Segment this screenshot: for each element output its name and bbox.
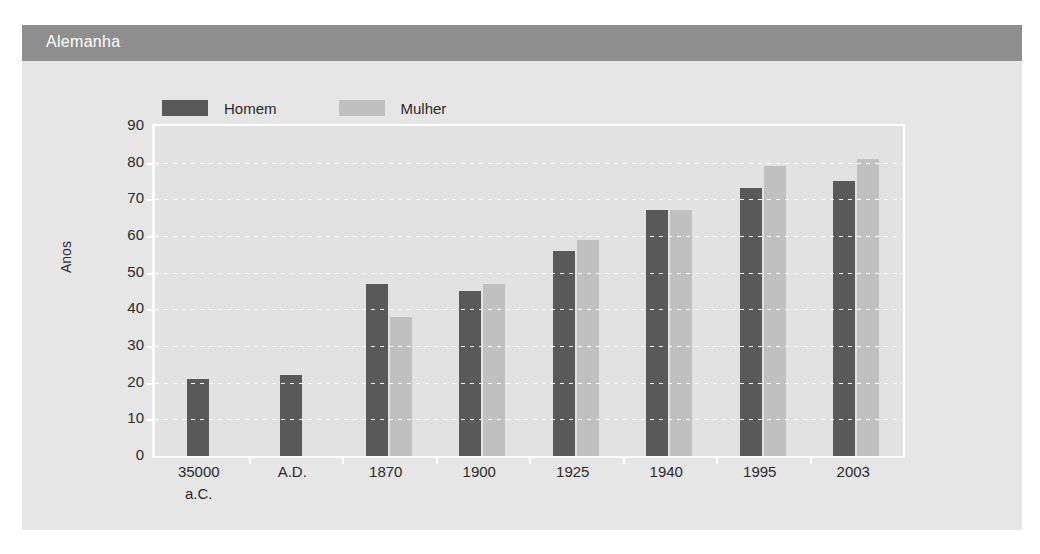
x-tick-label: 1995 (743, 461, 776, 483)
bar-mulher-7 (857, 159, 879, 456)
plot-wrapper: Anos 0102030405060708090 35000a.C.A.D.18… (22, 25, 1022, 530)
y-tick-mark (147, 273, 155, 275)
x-tick-label: 2003 (837, 461, 870, 483)
plot-area (152, 124, 905, 458)
y-tick-label: 0 (136, 446, 144, 463)
bar-homem-1 (280, 375, 302, 456)
bar-homem-7 (833, 181, 855, 456)
bar-homem-0 (187, 379, 209, 456)
y-tick-label: 60 (127, 226, 144, 243)
gridline (155, 163, 903, 164)
y-axis-title: Anos (58, 241, 74, 273)
y-tick-label: 10 (127, 409, 144, 426)
y-tick-mark (147, 419, 155, 421)
x-tick-label-line: 1870 (369, 463, 402, 480)
gridline (155, 199, 903, 200)
y-tick-mark (147, 309, 155, 311)
x-tick-label: 1870 (369, 461, 402, 483)
x-tick-label-line: a.C. (178, 483, 220, 505)
x-tick-label-line: 1900 (463, 463, 496, 480)
x-tick-label: 35000a.C. (178, 461, 220, 505)
x-axis-tick-labels: 35000a.C.A.D.187019001925194019952003 (152, 461, 900, 521)
x-tick-label-line: 1995 (743, 463, 776, 480)
x-tick-label-line: 2003 (837, 463, 870, 480)
gridline (155, 273, 903, 274)
x-tick-label-line: 35000 (178, 463, 220, 480)
y-tick-label: 80 (127, 152, 144, 169)
x-tick-label-line: 1940 (650, 463, 683, 480)
bars-layer (155, 126, 903, 456)
bar-mulher-2 (390, 317, 412, 456)
y-tick-mark (147, 346, 155, 348)
bar-homem-4 (553, 251, 575, 456)
y-tick-mark (147, 236, 155, 238)
bar-mulher-6 (764, 166, 786, 456)
y-tick-label: 50 (127, 262, 144, 279)
gridline (155, 236, 903, 237)
y-tick-label: 70 (127, 189, 144, 206)
gridline (155, 383, 903, 384)
y-axis-tick-labels: 0102030405060708090 (92, 124, 144, 454)
bar-homem-3 (459, 291, 481, 456)
x-tick-label: 1940 (650, 461, 683, 483)
gridline (155, 309, 903, 310)
figure-root: Alemanha HomemMulher Anos 01020304050607… (0, 0, 1040, 554)
gridline (155, 346, 903, 347)
y-tick-label: 40 (127, 299, 144, 316)
chart-panel: Alemanha HomemMulher Anos 01020304050607… (22, 25, 1022, 530)
x-tick-label: 1925 (556, 461, 589, 483)
y-tick-mark (147, 163, 155, 165)
x-tick-label: A.D. (278, 461, 307, 483)
x-tick-label-line: A.D. (278, 463, 307, 480)
gridline (155, 419, 903, 420)
y-tick-mark (147, 199, 155, 201)
bar-homem-6 (740, 188, 762, 456)
y-tick-label: 20 (127, 372, 144, 389)
y-tick-label: 30 (127, 336, 144, 353)
x-tick-label-line: 1925 (556, 463, 589, 480)
y-tick-mark (147, 383, 155, 385)
y-tick-label: 90 (127, 116, 144, 133)
x-tick-label: 1900 (463, 461, 496, 483)
